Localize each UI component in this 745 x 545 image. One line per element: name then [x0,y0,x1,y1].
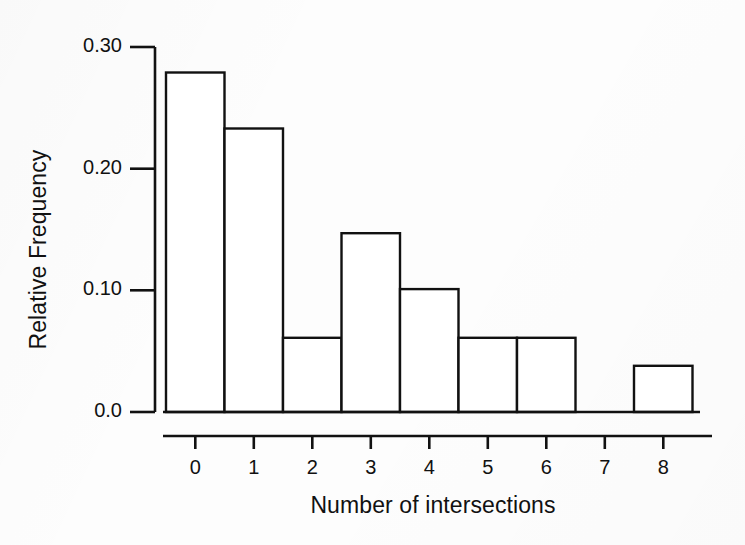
bar-1 [225,129,284,413]
bar-2 [283,338,342,412]
bar-0 [166,73,225,413]
plot-canvas [0,0,745,545]
bar-3 [342,233,401,412]
bars-group [166,73,693,413]
bar-5 [459,338,518,412]
bar-6 [517,338,576,412]
bar-8 [634,366,693,412]
histogram-figure: Relative Frequency Number of intersectio… [0,0,745,545]
bar-4 [400,289,459,412]
